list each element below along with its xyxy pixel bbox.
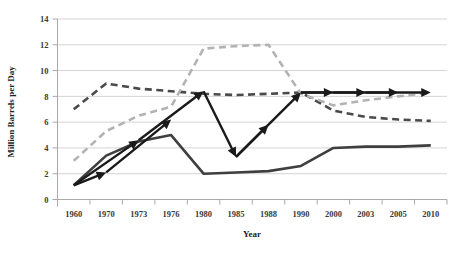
y-axis-tick-label: 6	[44, 117, 48, 127]
chart-container: 02468101214 1960197019731976198019851988…	[0, 0, 457, 255]
x-axis-tick-label: 2000	[325, 209, 342, 219]
x-axis-tick-label: 1960	[65, 209, 82, 219]
y-axis-tick-label: 10	[40, 66, 49, 76]
x-axis-tick-label: 1976	[163, 209, 180, 219]
x-axis-tick-label: 2010	[422, 209, 439, 219]
x-axis-tick-label: 1985	[228, 209, 245, 219]
y-axis-tick-label: 12	[40, 40, 49, 50]
x-axis-tick-label: 1988	[260, 209, 277, 219]
x-axis-tick-label: 1970	[98, 209, 115, 219]
x-axis-tick-label: 1990	[292, 209, 309, 219]
x-axis-title: Year	[243, 229, 261, 239]
y-axis-tick-label: 14	[40, 14, 49, 24]
x-axis-tick-label: 2005	[390, 209, 407, 219]
x-axis-tick-label: 2003	[357, 209, 374, 219]
line-chart: 02468101214 1960197019731976198019851988…	[0, 0, 457, 255]
y-axis-title: Million Barrels per Day	[6, 66, 16, 158]
y-axis-tick-label: 2	[44, 169, 48, 179]
x-axis-tick-label: 1980	[195, 209, 212, 219]
y-axis-tick-label: 0	[44, 195, 48, 205]
y-axis-tick-label: 8	[44, 92, 48, 102]
x-axis-tick-label: 1973	[130, 209, 147, 219]
